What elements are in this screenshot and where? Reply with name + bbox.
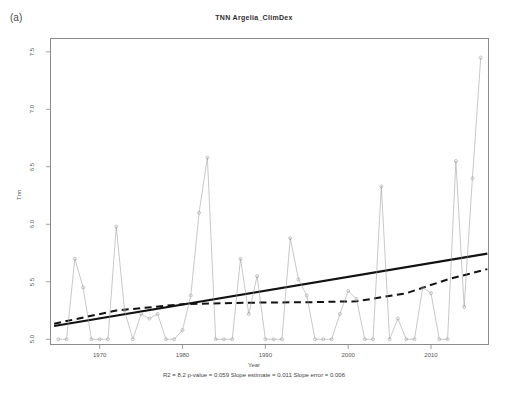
axis-ticks: [46, 52, 431, 349]
chart-canvas: [0, 0, 508, 394]
data-series-tnn: [57, 56, 482, 341]
